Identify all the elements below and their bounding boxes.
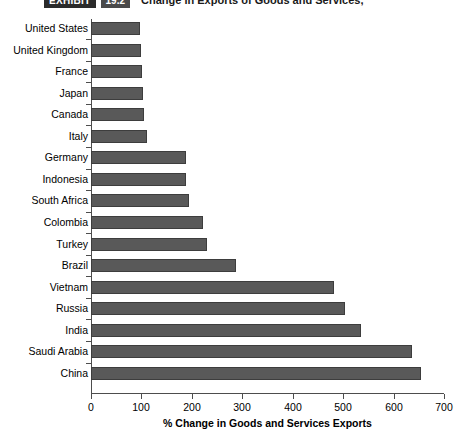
x-axis-tick-label: 300 [222, 401, 262, 413]
bar-japan [91, 87, 143, 100]
y-axis-label-japan: Japan [0, 88, 88, 99]
x-axis-tick [192, 394, 193, 399]
bar-france [91, 65, 142, 78]
y-axis-tick [86, 125, 91, 126]
x-axis-tick-label: 100 [121, 401, 161, 413]
x-axis-tick-label: 0 [71, 401, 111, 413]
bar-united-states [91, 22, 140, 35]
y-axis-label-saudi-arabia: Saudi Arabia [0, 346, 88, 357]
y-axis-label-united-kingdom: United Kingdom [0, 45, 88, 56]
bar-turkey [91, 238, 207, 251]
y-axis-label-canada: Canada [0, 109, 88, 120]
y-axis-label-brazil: Brazil [0, 260, 88, 271]
x-axis-tick-label: 600 [374, 401, 414, 413]
y-axis-tick [86, 82, 91, 83]
y-axis-tick [86, 298, 91, 299]
x-axis-title: % Change in Goods and Services Exports [91, 417, 444, 429]
y-axis-tick [86, 212, 91, 213]
bar-united-kingdom [91, 44, 141, 57]
bar-canada [91, 108, 144, 121]
y-axis-label-south-africa: South Africa [0, 195, 88, 206]
page-title: Change in Exports of Goods and Services, [141, 0, 364, 6]
y-axis-label-turkey: Turkey [0, 239, 88, 250]
bar-russia [91, 302, 345, 315]
x-axis-tick-label: 700 [424, 401, 464, 413]
y-axis-tick [86, 363, 91, 364]
x-axis-tick [141, 394, 142, 399]
bar-china [91, 367, 421, 380]
bar-india [91, 324, 361, 337]
y-axis-label-italy: Italy [0, 131, 88, 142]
y-axis-label-germany: Germany [0, 152, 88, 163]
y-axis-label-india: India [0, 325, 88, 336]
y-axis-tick [86, 233, 91, 234]
exhibit-badge: EXHIBIT [44, 0, 96, 8]
bar-saudi-arabia [91, 345, 412, 358]
y-axis-label-indonesia: Indonesia [0, 174, 88, 185]
x-axis-tick-label: 200 [172, 401, 212, 413]
bar-italy [91, 130, 147, 143]
x-axis-tick [444, 394, 445, 399]
y-axis-label-china: China [0, 368, 88, 379]
x-axis-tick [394, 394, 395, 399]
y-axis-label-russia: Russia [0, 303, 88, 314]
x-axis-tick [91, 394, 92, 399]
y-axis-tick [86, 147, 91, 148]
y-axis-tick [86, 39, 91, 40]
y-axis-tick [86, 104, 91, 105]
exhibit-number-badge: 19.2 [101, 0, 130, 8]
y-axis-label-united-states: United States [0, 23, 88, 34]
y-axis-tick [86, 319, 91, 320]
y-axis-label-colombia: Colombia [0, 217, 88, 228]
y-axis-tick [86, 190, 91, 191]
x-axis-line [91, 393, 444, 394]
x-axis-tick [242, 394, 243, 399]
bar-chart: United StatesUnited KingdomFranceJapanCa… [0, 9, 464, 434]
y-axis-tick [86, 276, 91, 277]
bar-indonesia [91, 173, 186, 186]
y-axis-tick [86, 255, 91, 256]
y-axis-tick [86, 169, 91, 170]
y-axis-label-vietnam: Vietnam [0, 282, 88, 293]
bar-brazil [91, 259, 236, 272]
bar-colombia [91, 216, 203, 229]
y-axis-tick [86, 61, 91, 62]
x-axis-tick [293, 394, 294, 399]
bar-germany [91, 151, 186, 164]
bar-south-africa [91, 194, 189, 207]
x-axis-tick [343, 394, 344, 399]
y-axis-tick [86, 341, 91, 342]
exhibit-header: EXHIBIT 19.2 Change in Exports of Goods … [0, 0, 464, 9]
y-axis-label-france: France [0, 66, 88, 77]
x-axis-tick-label: 400 [273, 401, 313, 413]
x-axis-tick-label: 500 [323, 401, 363, 413]
bar-vietnam [91, 281, 334, 294]
